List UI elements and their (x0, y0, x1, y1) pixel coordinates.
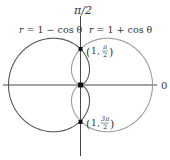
point-1-pi-over-2 (79, 47, 83, 51)
polar-axis-label: 0 (161, 80, 167, 91)
svg-text:1: 1 (91, 118, 97, 128)
svg-text:(: ( (86, 118, 90, 131)
point-pole (78, 83, 83, 88)
curve-label-plus: r = 1 + cos θ (89, 24, 153, 35)
svg-text:,: , (97, 46, 100, 56)
svg-text:3π: 3π (101, 115, 110, 123)
svg-text:): ) (110, 118, 114, 131)
svg-text:(: ( (86, 46, 90, 59)
point-label-pi-over-2: ( 1 , π 2 ) (86, 43, 113, 59)
curve-label-minus: r = 1 − cos θ (19, 24, 83, 35)
svg-text:π: π (102, 43, 108, 51)
svg-text:1: 1 (91, 46, 97, 56)
svg-text:2: 2 (103, 51, 107, 59)
svg-text:2: 2 (103, 123, 107, 131)
point-1-3pi-over-2 (79, 120, 83, 124)
svg-text:,: , (97, 118, 100, 128)
svg-text:): ) (109, 46, 113, 59)
point-label-3pi-over-2: ( 1 , 3π 2 ) (86, 115, 114, 131)
vertical-axis-label: π/2 (73, 4, 92, 17)
polar-cardioid-diagram: π/2 0 r = 1 − cos θ r = 1 + cos θ ( 1 , … (0, 0, 170, 160)
